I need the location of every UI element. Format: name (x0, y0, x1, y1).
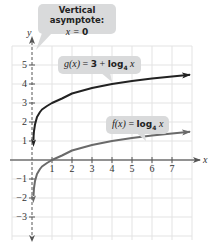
svg-text:7: 7 (170, 163, 175, 174)
svg-text:4: 4 (110, 163, 115, 174)
svg-text:2: 2 (70, 163, 75, 174)
asymptote-title: Vertical asymptote: (38, 6, 116, 26)
y-axis-label: y (26, 27, 32, 38)
vertical-asymptote-callout: Vertical asymptote: x = 0 (38, 4, 116, 34)
svg-text:1: 1 (50, 163, 55, 174)
svg-text:1: 1 (22, 135, 27, 146)
svg-text:6: 6 (150, 163, 155, 174)
svg-text:4: 4 (22, 78, 27, 89)
svg-text:−3: −3 (16, 211, 27, 222)
x-axis-label: x (202, 154, 208, 165)
g-function-label: g(x) = 3 + log4 x (58, 56, 141, 74)
svg-text:5: 5 (130, 163, 135, 174)
f-function-label: f(x) = log4 x (106, 116, 169, 134)
svg-text:2: 2 (22, 116, 27, 127)
svg-text:−2: −2 (16, 192, 27, 203)
svg-text:−1: −1 (16, 173, 27, 184)
x-tick-labels: 1 2 3 4 5 6 7 (50, 163, 175, 174)
svg-text:3: 3 (22, 97, 27, 108)
svg-text:3: 3 (90, 163, 95, 174)
svg-text:5: 5 (22, 59, 27, 70)
asymptote-equation: x = 0 (38, 26, 116, 38)
